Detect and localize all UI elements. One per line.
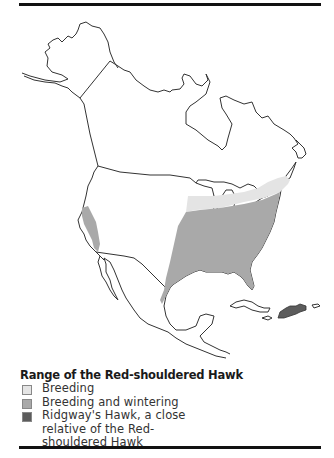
- puerto-rico-outline: [312, 304, 320, 308]
- map-legend: Range of the Red-shouldered Hawk Breedin…: [20, 368, 320, 450]
- alaska-canada-border: [80, 61, 110, 98]
- range-map: [0, 0, 334, 370]
- jamaica-outline: [262, 316, 272, 320]
- ridgways-range: [278, 304, 306, 318]
- legend-label: Ridgway's Hawk, a close relative of the …: [42, 409, 212, 450]
- west-coast-range: [82, 206, 100, 252]
- breeding-swatch: [22, 385, 32, 395]
- breeding-wintering-range: [160, 192, 280, 304]
- us-mexico-border: [96, 252, 168, 292]
- legend-label: Breeding and wintering: [42, 396, 179, 410]
- legend-label: Breeding: [42, 382, 94, 396]
- cuba-outline: [230, 300, 270, 312]
- legend-item-breeding-wintering: Breeding and wintering: [20, 396, 320, 410]
- baja-california: [98, 256, 118, 300]
- canada-us-border: [98, 166, 196, 183]
- legend-item-ridgways: Ridgway's Hawk, a close relative of the …: [20, 409, 320, 450]
- legend-title: Range of the Red-shouldered Hawk: [20, 368, 320, 382]
- ridgways-swatch: [22, 412, 32, 422]
- alaska-outline: [22, 22, 118, 82]
- bottom-rule: [19, 446, 321, 449]
- legend-item-breeding: Breeding: [20, 382, 320, 396]
- breeding-wintering-swatch: [22, 399, 32, 409]
- mexico-west-coast: [104, 258, 226, 358]
